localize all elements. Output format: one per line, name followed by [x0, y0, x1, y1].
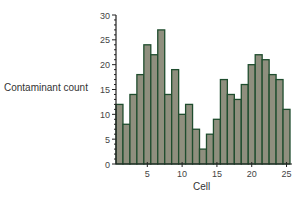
bar [151, 55, 158, 164]
bar [241, 85, 248, 164]
y-tick-label: 15 [100, 85, 110, 95]
bar [130, 94, 137, 164]
bar [269, 75, 276, 164]
bar [193, 129, 200, 164]
y-tick-label: 30 [100, 11, 110, 21]
bar-chart: 051015202530510152025 [0, 0, 307, 201]
y-tick-label: 20 [100, 60, 110, 70]
y-tick-label: 10 [100, 110, 110, 120]
bar [172, 70, 179, 164]
bar [276, 80, 283, 164]
bar [283, 109, 290, 164]
x-tick-label: 10 [177, 169, 187, 179]
x-tick-label: 5 [145, 169, 150, 179]
bar [206, 134, 213, 164]
y-tick-label: 25 [100, 35, 110, 45]
bar [255, 55, 262, 164]
bar [200, 149, 207, 164]
bar [144, 45, 151, 164]
bar [227, 94, 234, 164]
y-tick-label: 5 [105, 135, 110, 145]
bar [262, 60, 269, 164]
bar [137, 75, 144, 164]
bar [165, 94, 172, 164]
bar [220, 80, 227, 164]
y-tick-label: 0 [105, 160, 110, 170]
bar [116, 104, 123, 164]
bar [123, 124, 130, 164]
bar [158, 30, 165, 164]
x-tick-label: 15 [212, 169, 222, 179]
bar [179, 114, 186, 164]
x-tick-label: 20 [247, 169, 257, 179]
bar [186, 104, 193, 164]
x-tick-label: 25 [282, 169, 292, 179]
bar [234, 99, 241, 164]
bar [248, 65, 255, 164]
bar [213, 119, 220, 164]
